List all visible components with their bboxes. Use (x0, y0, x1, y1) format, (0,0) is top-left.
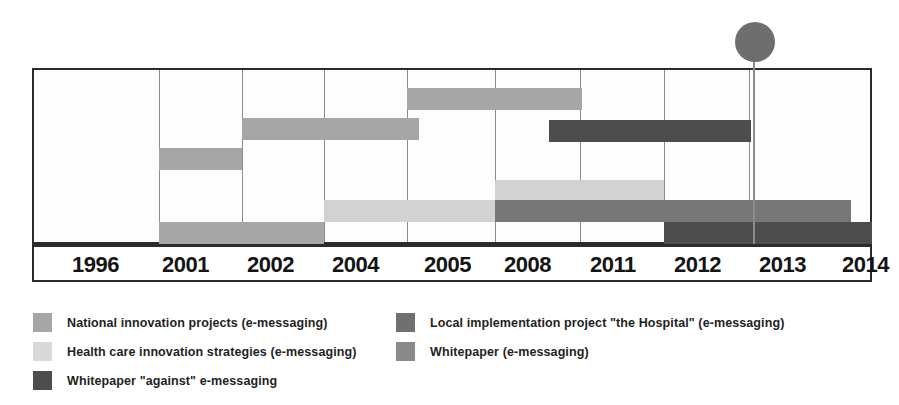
gantt-chart-plot-area (32, 68, 872, 244)
axis-tick-2012: 2012 (674, 251, 721, 279)
axis-tick-2004: 2004 (332, 251, 379, 279)
bar-national-2002-2005 (242, 118, 419, 140)
legend-label: Whitepaper (e-messaging) (430, 345, 589, 359)
legend-item[interactable]: National innovation projects (e-messagin… (33, 313, 328, 332)
bar-health-2008-2012 (495, 180, 664, 202)
legend-swatch-icon (33, 313, 52, 332)
legend-label: National innovation projects (e-messagin… (67, 316, 328, 330)
bar-whitepaper-against-2012-2014 (664, 222, 872, 244)
chart-legend: National innovation projects (e-messagin… (0, 300, 899, 405)
x-axis-band: 1996200120022004200520082011201220132014 (32, 244, 872, 282)
legend-swatch-icon (33, 371, 52, 390)
marker-stem-line (753, 62, 755, 244)
axis-tick-1996: 1996 (72, 251, 119, 279)
legend-swatch-icon (396, 313, 415, 332)
legend-label: Health care innovation strategies (e-mes… (67, 345, 357, 359)
legend-swatch-icon (396, 342, 415, 361)
legend-item[interactable]: Local implementation project "the Hospit… (396, 313, 784, 332)
legend-label: Whitepaper "against" e-messaging (67, 374, 277, 388)
legend-swatch-icon (33, 342, 52, 361)
bar-national-2001-2002 (159, 148, 242, 170)
bar-whitepaper-against-2011-2013 (549, 120, 751, 142)
plot-canvas (34, 70, 870, 242)
bar-national-2005-2011 (407, 88, 582, 110)
legend-item[interactable]: Health care innovation strategies (e-mes… (33, 342, 357, 361)
axis-tick-2013: 2013 (759, 251, 806, 279)
legend-label: Local implementation project "the Hospit… (430, 316, 784, 330)
gridline-1 (242, 70, 243, 242)
axis-tick-2005: 2005 (424, 251, 471, 279)
legend-item[interactable]: Whitepaper (e-messaging) (396, 342, 589, 361)
axis-tick-2001: 2001 (162, 251, 209, 279)
bar-national-2001-2004 (159, 222, 324, 244)
bar-health-2004-2008 (324, 200, 495, 222)
axis-tick-2002: 2002 (247, 251, 294, 279)
axis-tick-2011: 2011 (590, 251, 636, 279)
axis-tick-2014: 2014 (842, 251, 889, 279)
axis-tick-2008: 2008 (504, 251, 551, 279)
bar-local-2008-2014 (495, 200, 851, 222)
marker-circle-icon (735, 22, 775, 62)
legend-item[interactable]: Whitepaper "against" e-messaging (33, 371, 277, 390)
